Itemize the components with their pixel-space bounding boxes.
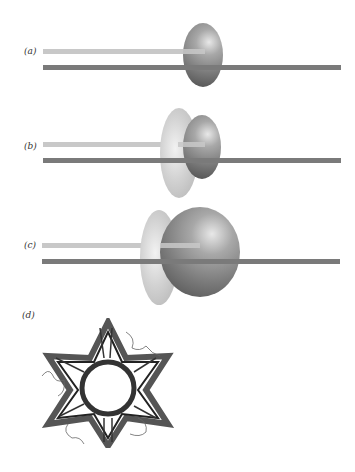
panel-label-c: (c) xyxy=(24,240,36,250)
template-strand-a xyxy=(43,49,205,54)
primer-strand-c xyxy=(42,259,340,264)
panel-label-d: (d) xyxy=(22,310,35,320)
primer-strand-b xyxy=(43,158,341,163)
primer-strand-a xyxy=(43,65,341,70)
polymerase-b xyxy=(183,115,221,179)
polymerase-a xyxy=(183,23,223,87)
template-strand-overlay-b xyxy=(178,142,205,147)
clamp-ring-structure xyxy=(38,318,178,448)
polymerase-c xyxy=(160,207,240,297)
template-strand-overlay-a xyxy=(183,49,205,54)
template-strand-overlay-c xyxy=(160,243,200,248)
panel-label-a: (a) xyxy=(24,46,36,56)
panel-label-b: (b) xyxy=(24,141,37,151)
